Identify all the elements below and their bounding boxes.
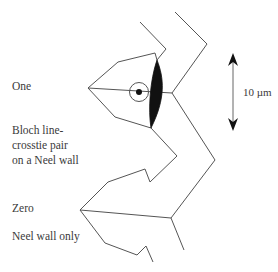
scale-bar-label: 10 µm	[243, 86, 272, 98]
upper-inner-wall	[140, 22, 166, 60]
outer-wall-top	[172, 12, 207, 93]
zero-domain-bottom-edge	[80, 210, 153, 262]
bloch-line-dot-icon	[136, 89, 142, 95]
one-domain-bottom-edge	[88, 88, 151, 128]
label-one: One	[12, 79, 31, 94]
label-neel-wall-only: Neel wall only	[12, 229, 80, 244]
inner-wall-middle	[80, 128, 177, 210]
crosstie-line-zero	[80, 210, 171, 218]
label-zero: Zero	[12, 201, 34, 216]
outer-wall-bottom	[171, 218, 184, 250]
scale-bar-arrow-icon	[228, 53, 238, 131]
label-bloch-line-crosstie: Bloch line- crosstie pair on a Neel wall	[12, 123, 79, 168]
one-domain-top-edge	[88, 53, 157, 88]
crosstie-lens	[150, 60, 163, 128]
outer-wall-middle	[171, 93, 215, 218]
